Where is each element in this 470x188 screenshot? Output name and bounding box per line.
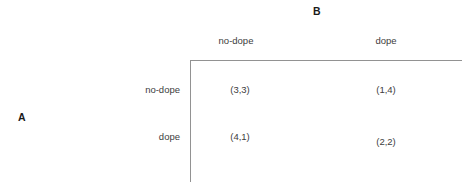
payoff-matrix-figure: B A no-dope dope no-dope dope (3,3) (1,4… (0, 0, 470, 188)
payoff-cell: (4,1) (194, 132, 286, 142)
row-player-label: A (15, 112, 29, 123)
matrix-left-rule (190, 60, 191, 182)
column-header-no-dope: no-dope (190, 36, 282, 46)
matrix-top-rule (190, 60, 462, 61)
column-player-label: B (310, 6, 324, 17)
payoff-cell: (2,2) (340, 137, 432, 147)
payoff-cell: (1,4) (340, 85, 432, 95)
row-header-no-dope: no-dope (80, 85, 180, 95)
row-header-dope: dope (80, 132, 180, 142)
column-header-dope: dope (340, 36, 432, 46)
payoff-cell: (3,3) (194, 85, 286, 95)
